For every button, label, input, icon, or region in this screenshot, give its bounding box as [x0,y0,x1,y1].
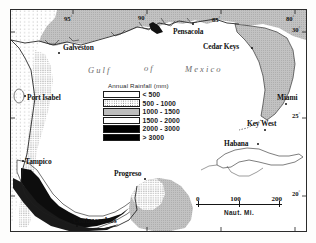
city-label-port-isabel: Port Isabel [27,94,61,101]
legend-label-under-500: < 500 [143,91,161,98]
city-label-key-west: Key West [247,120,276,127]
scale-bar-rule [196,204,282,209]
longitude-label-85: 85° [212,15,220,23]
latitude-label-20: 20° [292,189,300,197]
legend-label-2000-3000: 2000 - 3000 [143,125,180,132]
scale-bar-tick-right [279,201,280,207]
legend-swatch-500-1000 [103,99,140,107]
legend-swatch-1500-2000 [103,117,140,125]
ocean-label-gulf: Gulf [88,65,112,75]
legend-row: 500 - 1000 [103,99,199,107]
city-label-habana: Habana [224,140,248,147]
legend-swatch-1000-1500 [103,108,140,116]
city-label-progreso: Progreso [114,170,141,177]
legend-row: > 3000 [103,133,199,141]
legend-row: 1000 - 1500 [103,108,199,116]
legend-row: 1500 - 2000 [103,116,199,124]
legend-swatch-over-3000 [103,134,140,142]
city-label-cedar-keys: Cedar Keys [203,43,239,50]
legend-label-1000-1500: 1000 - 1500 [143,108,180,115]
ocean-label-of: of [144,63,155,73]
scale-tick-200: 200 [272,195,283,203]
legend-title: Annual Rainfall (mm) [108,82,199,89]
city-label-tampico: Tampico [25,158,52,165]
legend-label-over-3000: > 3000 [143,134,165,141]
latitude-label-25: 25° [292,111,300,119]
legend-row: 2000 - 3000 [103,125,199,133]
legend-label-500-1000: 500 - 1000 [143,100,177,107]
city-label-miami: Miami [277,94,297,101]
legend-swatch-under-500 [103,91,140,99]
legend-swatch-2000-3000 [103,125,140,133]
legend-label-1500-2000: 1500 - 2000 [143,117,180,124]
ocean-label-mexico: Mexico [185,64,223,74]
rainfall-legend: Annual Rainfall (mm) < 500 500 - 1000 10… [103,82,199,142]
latitude-label-30: 30° [292,25,300,33]
longitude-label-90: 90° [138,13,146,21]
legend-row: < 500 [103,91,199,99]
city-label-galveston: Galveston [63,44,94,51]
longitude-label-80: 80° [286,14,294,22]
city-label-pensacola: Pensacola [173,28,203,35]
rainfall-map-figure: Gulf of Mexico Galveston Pensacola Cedar… [0,0,316,243]
scale-bar-caption: Naut. Mi. [196,209,282,216]
scale-bar-tick-left [198,201,199,207]
longitude-label-95: 95° [64,14,72,22]
city-label-coatzacoalcos: Coatzacoalcos [73,217,116,224]
scale-bar: 0 100 200 Naut. Mi. [196,195,282,216]
scale-bar-tick-mid [239,201,240,207]
